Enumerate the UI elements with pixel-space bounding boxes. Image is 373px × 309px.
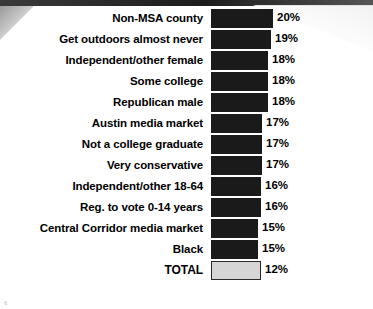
bar-category-label: Independent/other female <box>0 50 203 71</box>
chart-row: Some college18% <box>0 71 373 92</box>
chart-row: Black15% <box>0 239 373 260</box>
chart-row: Independent/other female18% <box>0 50 373 71</box>
bar-wrapper <box>211 135 262 154</box>
chart-row: Very conservative17% <box>0 155 373 176</box>
bar-value-label: 18% <box>272 71 295 90</box>
bar <box>211 156 262 175</box>
bar-value-label: 17% <box>266 155 289 174</box>
horizontal-bar-chart: Non-MSA county20%Get outdoors almost nev… <box>0 8 373 281</box>
bar-wrapper <box>211 72 268 91</box>
bar-value-label: 15% <box>262 218 285 237</box>
bar-wrapper <box>211 156 262 175</box>
bar <box>211 9 273 28</box>
bar-wrapper <box>211 51 268 70</box>
bar-category-label: Some college <box>0 71 203 92</box>
bar-wrapper <box>211 30 271 49</box>
chart-row: Reg. to vote 0-14 years16% <box>0 197 373 218</box>
bar-wrapper <box>211 240 258 259</box>
chart-row: Republican male18% <box>0 92 373 113</box>
bar-category-label: Black <box>0 239 203 260</box>
bar <box>211 219 258 238</box>
bar-category-label: Independent/other 18-64 <box>0 176 203 197</box>
bar-wrapper <box>211 93 268 112</box>
bar-wrapper <box>211 9 273 28</box>
bar-category-label: Austin media market <box>0 113 203 134</box>
bar-wrapper <box>211 219 258 238</box>
bar-category-label: Get outdoors almost never <box>0 29 203 50</box>
bar-value-label: 18% <box>272 50 295 69</box>
bar <box>211 177 261 196</box>
bar <box>211 30 271 49</box>
bar-category-label: TOTAL <box>0 260 203 281</box>
bar-category-label: Republican male <box>0 92 203 113</box>
chart-row: TOTAL12% <box>0 260 373 281</box>
bar-wrapper <box>211 114 262 133</box>
bar <box>211 135 262 154</box>
bar-wrapper <box>211 198 261 217</box>
bar <box>211 114 262 133</box>
bar-value-label: 17% <box>266 134 289 153</box>
bar-wrapper <box>211 177 261 196</box>
chart-row: Not a college graduate17% <box>0 134 373 155</box>
bar <box>211 72 268 91</box>
chart-row: Austin media market17% <box>0 113 373 134</box>
bar <box>211 198 261 217</box>
chart-row: Get outdoors almost never19% <box>0 29 373 50</box>
bar-category-label: Central Corridor media market <box>0 218 203 239</box>
bar-category-label: Non-MSA county <box>0 8 203 29</box>
bar-wrapper <box>211 261 261 280</box>
bar-value-label: 12% <box>265 260 288 279</box>
chart-row: Independent/other 18-6416% <box>0 176 373 197</box>
bar-category-label: Very conservative <box>0 155 203 176</box>
bar-category-label: Reg. to vote 0-14 years <box>0 197 203 218</box>
bar-value-label: 15% <box>262 239 285 258</box>
bar <box>211 51 268 70</box>
page-number: 6 <box>4 300 7 306</box>
bar-category-label: Not a college graduate <box>0 134 203 155</box>
bar-value-label: 16% <box>265 176 288 195</box>
bar-value-label: 17% <box>266 113 289 132</box>
bar-total <box>211 261 261 280</box>
bar-value-label: 16% <box>265 197 288 216</box>
bar-value-label: 20% <box>277 8 300 27</box>
bar <box>211 240 258 259</box>
chart-row: Central Corridor media market15% <box>0 218 373 239</box>
bar-value-label: 18% <box>272 92 295 111</box>
chart-row: Non-MSA county20% <box>0 8 373 29</box>
bar <box>211 93 268 112</box>
slide-canvas: Non-MSA county20%Get outdoors almost nev… <box>0 0 373 309</box>
bar-value-label: 19% <box>275 29 298 48</box>
